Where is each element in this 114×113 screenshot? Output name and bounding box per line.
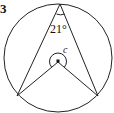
central-angle-label: c xyxy=(63,44,68,55)
circle xyxy=(4,4,112,112)
inscribed-angle-arc xyxy=(57,14,65,15)
circle-theorem-diagram: 3 21° c xyxy=(0,0,114,113)
question-number: 3 xyxy=(0,1,7,16)
inscribed-angle-label: 21° xyxy=(50,22,67,36)
inscribed-angle-lines xyxy=(17,4,98,96)
center-point xyxy=(57,60,60,63)
